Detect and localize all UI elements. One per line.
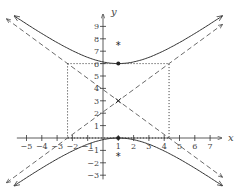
- x-tick-label: −3: [51, 142, 63, 151]
- x-tick-label: 7: [208, 142, 213, 151]
- hyperbola-chart: −5−4−3−2−11234567−3−2−1123456789 ** x y: [0, 0, 247, 196]
- asymptote-1: [7, 25, 223, 183]
- y-tick-label: −1: [87, 146, 99, 155]
- x-tick-label: −5: [21, 142, 33, 151]
- y-tick-label: 9: [94, 22, 99, 31]
- y-tick-label: 8: [94, 35, 99, 44]
- focus-bottom-marker: *: [116, 151, 121, 162]
- vertex-bottom-marker: [116, 136, 120, 140]
- y-tick-label: 5: [94, 72, 99, 81]
- x-axis-label: x: [228, 132, 234, 143]
- y-tick-label: 2: [94, 109, 99, 118]
- y-tick-label: 1: [94, 122, 99, 131]
- x-tick-label: 5: [177, 142, 182, 151]
- focus-top-marker: *: [116, 40, 121, 51]
- vertex-top-marker: [116, 62, 120, 66]
- asymptote-2: [7, 19, 223, 177]
- x-tick-label: 1: [116, 142, 121, 151]
- y-tick-label: −3: [87, 171, 99, 180]
- x-tick-label: 2: [131, 142, 136, 151]
- center-marker: [116, 98, 121, 103]
- x-tick-label: 6: [192, 142, 197, 151]
- y-tick-label: 3: [94, 97, 99, 106]
- y-tick-label: 7: [94, 47, 99, 56]
- x-tick-label: −2: [67, 142, 79, 151]
- y-tick-label: 4: [94, 84, 99, 93]
- x-tick-label: −4: [36, 142, 48, 151]
- y-tick-label: −2: [87, 159, 99, 168]
- y-axis-label: y: [110, 6, 117, 17]
